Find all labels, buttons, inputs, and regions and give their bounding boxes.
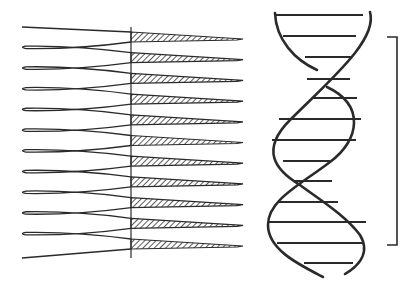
strand-fold-loop — [23, 166, 132, 177]
hatched-wedge — [131, 32, 243, 42]
hatched-wedge — [131, 73, 243, 83]
strand-fold-loop — [23, 83, 132, 94]
strand-start-line — [22, 27, 131, 32]
strand-fold-loop — [23, 187, 132, 198]
hatched-wedge — [131, 53, 243, 63]
strand-fold-loop — [23, 146, 132, 157]
double-helix-diagram — [268, 12, 371, 277]
figure-svg — [0, 0, 417, 293]
length-bracket — [387, 37, 397, 245]
helix-strand — [268, 87, 354, 277]
bracket-line — [387, 37, 397, 245]
hatched-wedge — [131, 198, 243, 208]
hatched-wedge — [131, 156, 243, 166]
figure-canvas — [0, 0, 417, 293]
strand-fold-loop — [23, 125, 132, 136]
hatched-wedge — [131, 218, 243, 228]
hatched-wedge — [131, 94, 243, 104]
folded-strand-diagram — [22, 27, 243, 258]
hatched-wedge — [131, 239, 243, 249]
strand-fold-loop — [23, 42, 132, 53]
strand-fold-loop — [23, 104, 132, 115]
strand-fold-loop — [23, 208, 132, 219]
hatched-wedge — [131, 177, 243, 187]
helix-strand — [275, 13, 317, 70]
strand-fold-loop — [23, 228, 132, 239]
hatched-wedge — [131, 136, 243, 146]
strand-end-line — [22, 249, 131, 258]
helix-strand — [273, 12, 371, 274]
strand-fold-loop — [23, 63, 132, 74]
hatched-wedge — [131, 115, 243, 125]
